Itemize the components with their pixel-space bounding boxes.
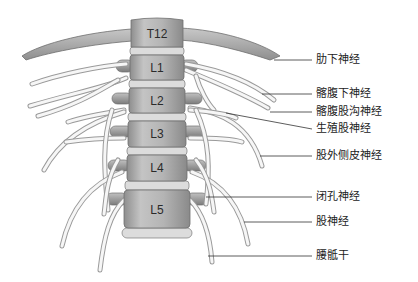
vertebral-column: T12 L1 L2 L3 L4 L5: [122, 18, 192, 238]
label-femoral-nerve: 股神经: [316, 216, 349, 228]
nerves-left: [30, 64, 126, 270]
label-genitofemoral-nerve: 生殖股神经: [316, 123, 371, 135]
label-lateral-femoral-cutaneous-nerve: 股外侧皮神经: [316, 150, 382, 162]
vertebra-label-l2: L2: [150, 94, 164, 108]
vertebra-label-l3: L3: [150, 127, 164, 141]
vertebra-label-l4: L4: [150, 161, 164, 175]
label-obturator-nerve: 闭孔神经: [316, 191, 360, 203]
vertebra-label-t12: T12: [147, 27, 168, 41]
label-ilioinguinal-nerve: 髂腹股沟神经: [316, 106, 382, 118]
label-subcostal-nerve: 肋下神经: [316, 54, 360, 66]
vertebra-label-l5: L5: [150, 203, 164, 217]
label-iliohypogastric-nerve: 髂腹下神经: [316, 88, 371, 100]
label-lumbosacral-trunk: 腰骶干: [316, 250, 349, 262]
lumbar-plexus-diagram: T12 L1 L2 L3 L4 L5: [0, 0, 418, 282]
vertebra-label-l1: L1: [150, 61, 164, 75]
